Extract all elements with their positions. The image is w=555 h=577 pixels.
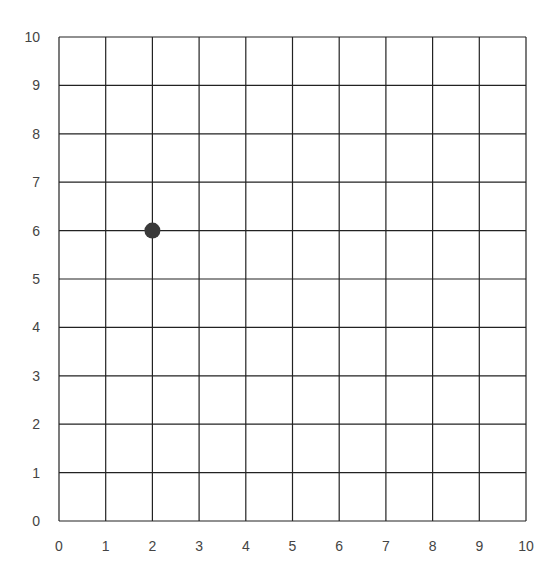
x-tick-label: 7 — [382, 538, 390, 554]
x-tick-label: 1 — [102, 538, 110, 554]
x-tick-label: 5 — [289, 538, 297, 554]
data-point-marker — [144, 223, 160, 239]
x-tick-label: 2 — [149, 538, 157, 554]
y-tick-label: 3 — [32, 368, 40, 384]
y-tick-label: 5 — [32, 271, 40, 287]
x-tick-label: 4 — [242, 538, 250, 554]
y-tick-label: 1 — [32, 465, 40, 481]
y-tick-label: 7 — [32, 174, 40, 190]
y-tick-label: 0 — [32, 513, 40, 529]
data-points — [144, 223, 160, 239]
x-tick-label: 8 — [429, 538, 437, 554]
y-tick-label: 6 — [32, 223, 40, 239]
y-tick-label: 4 — [32, 319, 40, 335]
y-tick-label: 2 — [32, 416, 40, 432]
y-tick-label: 10 — [24, 29, 40, 45]
x-tick-label: 3 — [195, 538, 203, 554]
x-tick-label: 6 — [335, 538, 343, 554]
x-tick-label: 0 — [55, 538, 63, 554]
y-tick-label: 8 — [32, 126, 40, 142]
x-tick-label: 10 — [518, 538, 534, 554]
y-axis-ticks: 012345678910 — [24, 29, 40, 529]
grid-lines — [59, 37, 526, 521]
coordinate-grid-chart: 012345678910 012345678910 — [0, 0, 555, 577]
x-axis-ticks: 012345678910 — [55, 538, 534, 554]
y-tick-label: 9 — [32, 77, 40, 93]
x-tick-label: 9 — [475, 538, 483, 554]
